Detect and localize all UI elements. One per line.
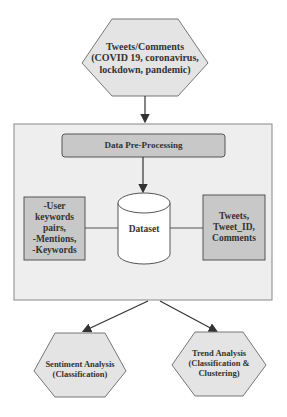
sentiment-line-2: (Classification) (53, 370, 108, 380)
preprocessing-label: Data Pre-Processing (62, 134, 225, 157)
right-line-3: Comments (212, 233, 256, 244)
left-line-4: -Mentions, (33, 234, 77, 245)
sentiment-label: Sentiment Analysis (Classification) (34, 350, 126, 390)
right-line-2: Tweet_ID, (213, 222, 255, 233)
trend-line-3: Clustering) (198, 369, 239, 379)
source-line-3: lockdown, pandemic) (99, 64, 190, 76)
arrow-to-sentiment (84, 301, 148, 331)
right-line-1: Tweets, (219, 211, 249, 222)
left-line-1: -User (43, 201, 65, 212)
dataset-label: Dataset (118, 214, 170, 244)
trend-label: Trend Analysis (Classification & Cluster… (172, 342, 266, 386)
user-keywords-label: -User keywords pairs, -Mentions, -Keywor… (24, 197, 85, 260)
source-label: Tweets/Comments (COVID 19, coronavirus, … (82, 32, 208, 84)
left-line-5: -Keywords (32, 245, 76, 256)
tweets-label: Tweets, Tweet_ID, Comments (203, 195, 265, 260)
source-line-1: Tweets/Comments (106, 41, 184, 53)
source-line-2: (COVID 19, coronavirus, (91, 52, 199, 64)
left-line-3: pairs, (43, 223, 66, 234)
flow-diagram: Tweets/Comments (COVID 19, coronavirus, … (0, 0, 287, 417)
arrow-to-trend (160, 301, 216, 331)
left-line-2: keywords (35, 212, 74, 223)
